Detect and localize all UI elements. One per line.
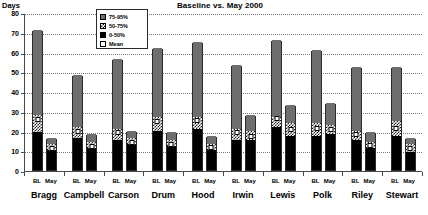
mean-marker <box>35 117 40 122</box>
x-sublabel: May <box>360 178 379 184</box>
segment-0-50 <box>113 140 122 170</box>
x-sublabel: May <box>81 178 100 184</box>
segment-75-95 <box>33 30 42 115</box>
segment-0-50 <box>207 150 216 170</box>
legend-item: 50-75% <box>100 21 147 30</box>
segment-0-50 <box>392 136 401 170</box>
y-tick-label: 60 <box>0 50 19 57</box>
x-axis: BLMayBraggBLMayCampbellBLMayCarsonBLMayD… <box>24 172 422 214</box>
bar-polk-may <box>325 104 336 171</box>
y-tick-mark <box>21 133 24 134</box>
bar-bragg-bl <box>32 31 43 171</box>
x-tick-mark <box>422 172 423 176</box>
segment-75-95 <box>87 134 96 142</box>
mean-marker <box>195 118 200 123</box>
bar-bragg-may <box>46 139 57 171</box>
x-sublabel: May <box>400 178 419 184</box>
mean-marker <box>49 146 54 151</box>
segment-75-95 <box>272 40 281 117</box>
bar-lewis-may <box>285 106 296 171</box>
segment-0-50 <box>246 140 255 170</box>
segment-75-95 <box>366 132 375 142</box>
legend-item: Mean <box>100 39 147 48</box>
segment-75-95 <box>286 105 295 123</box>
plot-area <box>24 14 422 172</box>
segment-75-95 <box>167 132 176 140</box>
legend-swatch-icon <box>100 23 106 29</box>
y-tick-label: 80 <box>0 10 19 17</box>
y-tick-mark <box>21 152 24 153</box>
segment-75-95 <box>232 65 241 128</box>
mean-marker <box>169 142 174 147</box>
mean-marker <box>368 143 373 148</box>
segment-0-50 <box>312 136 321 170</box>
x-sublabel: May <box>240 178 259 184</box>
bar-carson-bl <box>112 60 123 171</box>
bar-irwin-may <box>245 116 256 171</box>
x-sublabel: May <box>201 178 220 184</box>
bar-riley-may <box>365 133 376 171</box>
chart-legend: 75-95%50-75%0-50%Mean <box>96 9 148 49</box>
x-sublabel: May <box>41 178 60 184</box>
segment-0-50 <box>272 127 281 170</box>
legend-swatch-icon <box>100 32 106 38</box>
mean-marker <box>314 126 319 131</box>
segment-75-95 <box>246 115 255 131</box>
segment-0-50 <box>167 146 176 170</box>
segment-0-50 <box>87 148 96 170</box>
y-tick-label: 10 <box>0 148 19 155</box>
y-tick-label: 0 <box>0 168 19 175</box>
segment-75-95 <box>352 67 361 130</box>
y-tick-mark <box>21 113 24 114</box>
x-tick-mark <box>382 172 383 176</box>
y-tick-label: 50 <box>0 69 19 76</box>
segment-0-50 <box>232 140 241 170</box>
segment-0-50 <box>153 131 162 171</box>
y-tick-mark <box>21 14 24 15</box>
x-group-label-carson: Carson <box>104 190 144 200</box>
bar-campbell-bl <box>72 76 83 171</box>
legend-swatch-icon <box>100 14 106 20</box>
mean-marker <box>248 134 253 139</box>
segment-75-95 <box>207 136 216 144</box>
bar-riley-bl <box>351 68 362 171</box>
segment-0-50 <box>286 136 295 170</box>
legend-label: 0-50% <box>109 32 125 38</box>
segment-0-50 <box>366 148 375 170</box>
mean-marker <box>209 145 214 150</box>
y-tick-mark <box>21 34 24 35</box>
mean-marker <box>75 129 80 134</box>
x-tick-mark <box>263 172 264 176</box>
x-tick-mark <box>223 172 224 176</box>
x-sublabel: May <box>320 178 339 184</box>
segment-0-50 <box>73 138 82 170</box>
x-sublabel: May <box>161 178 180 184</box>
chart-title: Baseline vs. May 2000 <box>150 1 290 10</box>
segment-75-95 <box>312 50 321 123</box>
bar-carson-may <box>126 132 137 172</box>
segment-0-50 <box>47 150 56 170</box>
x-sublabel: May <box>121 178 140 184</box>
x-tick-mark <box>303 172 304 176</box>
mean-marker <box>408 146 413 151</box>
bars-layer <box>25 14 422 171</box>
mean-marker <box>394 126 399 131</box>
mean-marker <box>328 127 333 132</box>
segment-75-95 <box>113 59 122 128</box>
x-group-label-drum: Drum <box>143 190 183 200</box>
segment-75-95 <box>392 67 401 120</box>
y-tick-mark <box>21 54 24 55</box>
x-group-label-polk: Polk <box>303 190 343 200</box>
y-axis-title: Days <box>2 1 20 10</box>
bar-stewart-bl <box>391 68 402 171</box>
x-tick-mark <box>24 172 25 176</box>
legend-swatch-icon <box>100 41 106 47</box>
mean-marker <box>155 119 160 124</box>
x-tick-mark <box>342 172 343 176</box>
mean-marker <box>115 130 120 135</box>
bar-hood-may <box>206 137 217 171</box>
x-tick-mark <box>183 172 184 176</box>
mean-marker <box>288 127 293 132</box>
bar-drum-may <box>166 133 177 171</box>
segment-75-95 <box>326 103 335 125</box>
